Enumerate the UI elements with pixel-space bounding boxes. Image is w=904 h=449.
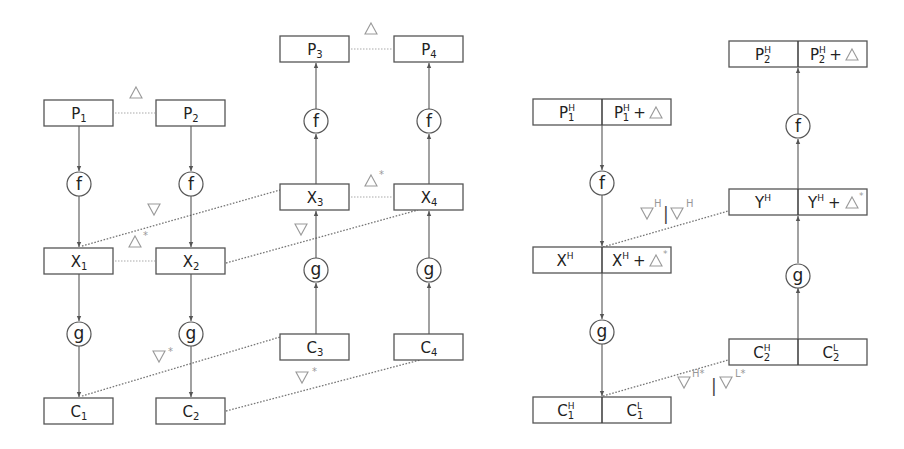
node-xh: XH XH+ * (533, 247, 671, 273)
node-yh: YH YH+ * (729, 189, 867, 215)
svg-text:*: * (379, 169, 384, 180)
function-f-col2: f (179, 172, 203, 196)
svg-text:CH1: CH1 (557, 401, 574, 421)
svg-text:*: * (143, 230, 148, 241)
svg-text:PH1: PH1 (559, 103, 575, 123)
nabla-icon (295, 224, 307, 235)
svg-text:g: g (311, 259, 322, 279)
function-f-left: f (590, 171, 614, 195)
svg-text:f: f (76, 174, 83, 194)
delta-star-label: * (365, 169, 384, 186)
svg-text:CH2: CH2 (753, 343, 770, 363)
function-f-right: f (786, 114, 810, 138)
nabla-star-label: * (296, 366, 317, 383)
node-p2: P2 (156, 100, 225, 126)
function-g-col2: g (179, 322, 203, 346)
delta-icon (365, 23, 377, 34)
function-g-left: g (590, 320, 614, 344)
node-p1: P1 (44, 100, 113, 126)
svg-text:|: | (711, 376, 717, 396)
function-g-col3: g (304, 258, 328, 282)
function-f-col4: f (417, 109, 441, 133)
svg-text:f: f (313, 111, 320, 131)
node-c1-hl: CH1 CL1 (533, 397, 671, 423)
right-diagram: PH1 PH1+ PH2 PH2+ XH XH+ * YH YH+ (533, 41, 867, 423)
node-p4: P4 (394, 36, 463, 62)
svg-text:CL2: CL2 (823, 343, 840, 363)
svg-text:g: g (424, 259, 435, 279)
svg-text:f: f (426, 111, 433, 131)
diagram-canvas: P1 P2 X1 X2 C1 C2 P3 P4 (0, 0, 904, 449)
svg-text:PH2: PH2 (755, 45, 771, 65)
node-x1: X1 (44, 248, 113, 274)
node-p2h: PH2 PH2+ (729, 41, 867, 67)
node-p3: P3 (280, 36, 349, 62)
function-f-col3: f (304, 109, 328, 133)
node-x2: X2 (156, 248, 225, 274)
nabla-star-label: * (153, 346, 173, 362)
svg-text:*: * (859, 191, 864, 201)
nabla-h-pair-label: H | H (641, 198, 694, 224)
svg-text:f: f (795, 116, 802, 136)
node-c3: C3 (280, 334, 349, 360)
svg-text:H*: H* (692, 368, 705, 379)
relation-c2-c4 (226, 360, 420, 411)
node-c1: C1 (44, 398, 113, 424)
delta-icon (130, 87, 142, 98)
svg-text:*: * (663, 249, 668, 259)
node-c4: C4 (394, 334, 463, 360)
svg-text:f: f (599, 173, 606, 193)
function-g-col1: g (67, 322, 91, 346)
nabla-hl-star-pair-label: H* | L* (678, 368, 746, 396)
relation-c1-c3 (82, 337, 280, 396)
node-c2: C2 (156, 398, 225, 424)
svg-text:g: g (186, 323, 197, 343)
left-diagram: P1 P2 X1 X2 C1 C2 P3 P4 (44, 23, 463, 424)
svg-text:g: g (74, 323, 85, 343)
node-p1h: PH1 PH1+ (533, 99, 671, 125)
svg-text:CL1: CL1 (627, 401, 644, 421)
svg-text:g: g (597, 321, 608, 341)
svg-text:g: g (793, 265, 804, 285)
function-g-col4: g (417, 258, 441, 282)
node-x4: X4 (394, 184, 463, 210)
relation-x2-x4 (226, 210, 418, 263)
svg-text:*: * (312, 366, 317, 377)
relation-x1-x3 (82, 190, 280, 246)
function-f-col1: f (67, 172, 91, 196)
svg-text:H: H (686, 198, 694, 209)
function-g-right: g (786, 264, 810, 288)
svg-text:H: H (654, 198, 662, 209)
svg-text:f: f (188, 174, 195, 194)
nabla-icon (148, 204, 160, 215)
node-c2-hl: CH2 CL2 (729, 339, 867, 365)
svg-text:L*: L* (735, 368, 746, 379)
svg-text:*: * (168, 346, 173, 357)
svg-text:|: | (663, 204, 669, 224)
node-x3: X3 (280, 184, 349, 210)
